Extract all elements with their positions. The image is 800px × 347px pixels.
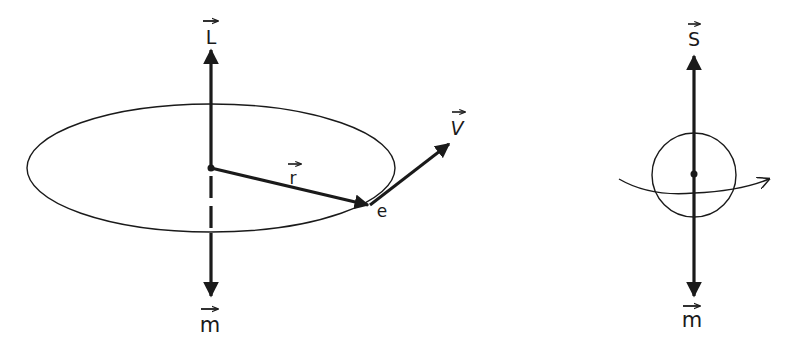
label-L: L: [203, 21, 218, 48]
label-position-vector: r: [290, 168, 297, 188]
spin-center-dot: [691, 171, 698, 178]
label-velocity: V: [451, 117, 466, 139]
diagram-canvas: L r V e m S: [0, 0, 800, 347]
label-spin: S: [688, 28, 700, 50]
label-m-orbital: m: [200, 309, 220, 337]
label-S: S: [688, 24, 700, 50]
label-magnetic-moment-spin: m: [682, 308, 702, 332]
label-r: r: [288, 164, 301, 188]
orbital-panel: L r V e m: [27, 21, 466, 337]
spin-panel: S m: [619, 24, 769, 332]
label-V: V: [451, 112, 466, 139]
label-angular-momentum: L: [206, 26, 217, 48]
label-electron: e: [377, 201, 387, 221]
label-magnetic-moment-orbital: m: [200, 313, 220, 337]
label-m-spin: m: [682, 306, 702, 332]
velocity-vector: [370, 144, 449, 205]
